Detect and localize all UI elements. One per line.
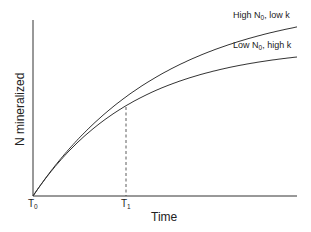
label-low-n0-high-k: Low N0, high k — [233, 40, 291, 51]
y-axis-title: N mineralized — [13, 73, 27, 146]
x-tick-t0: T0 — [28, 198, 38, 210]
x-tick-t1: T1 — [121, 198, 131, 210]
label-high-n0-low-k: High N0, low k — [233, 10, 290, 21]
curve-high-n0-low-k — [33, 27, 297, 196]
curve-low-n0-high-k — [33, 57, 297, 196]
chart-canvas — [0, 0, 311, 232]
x-axis-title: Time — [151, 210, 177, 224]
